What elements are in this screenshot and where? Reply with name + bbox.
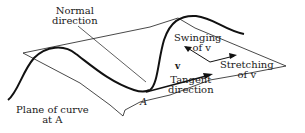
space-curve-left [8, 48, 150, 100]
osculating-plane-diagram: Normal direction Swinging of v v Stretch… [0, 0, 305, 133]
swinging-text-line2: of v [174, 43, 222, 53]
point-A-text: A [140, 97, 147, 107]
vector-v-label: v [175, 61, 180, 71]
plane-of-curve-label: Plane of curve at A [16, 105, 89, 125]
stretching-text-line2: of v [220, 70, 274, 80]
tangent-text-line2: direction [168, 85, 214, 95]
normal-text-line2: direction [52, 16, 98, 26]
normal-direction-label: Normal direction [52, 6, 98, 26]
point-A-label: A [140, 97, 147, 107]
tangent-direction-label: Tangent direction [168, 75, 214, 95]
vector-v-text: v [175, 61, 180, 71]
swinging-label: Swinging of v [174, 33, 222, 53]
plane-text-line2: at A [16, 115, 89, 125]
stretching-label: Stretching of v [220, 60, 274, 80]
point-A-dot [147, 90, 149, 92]
